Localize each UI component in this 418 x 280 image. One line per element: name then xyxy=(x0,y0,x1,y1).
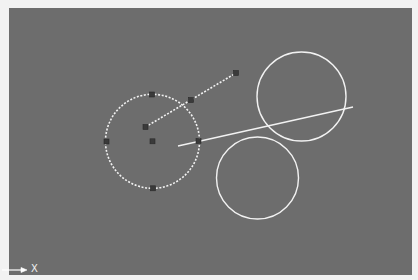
ucs-x-axis-icon xyxy=(2,268,27,273)
grip-end[interactable] xyxy=(234,71,239,76)
drawing-canvas[interactable] xyxy=(0,0,418,280)
grip-start[interactable] xyxy=(143,125,148,130)
circle-upper-right[interactable] xyxy=(257,52,346,141)
grip-points[interactable] xyxy=(104,71,239,191)
grip-quadrant-top[interactable] xyxy=(150,92,155,97)
grip-quadrant-bottom[interactable] xyxy=(151,186,156,191)
circle-lower[interactable] xyxy=(217,137,299,219)
ucs-x-label: X xyxy=(31,263,38,275)
drawing-window: X xyxy=(0,0,418,280)
grip-midpoint[interactable] xyxy=(189,98,194,103)
grip-quadrant-left[interactable] xyxy=(104,139,109,144)
grip-quadrant-right[interactable] xyxy=(196,139,201,144)
grip-center[interactable] xyxy=(150,139,155,144)
line-solid[interactable] xyxy=(178,107,353,146)
